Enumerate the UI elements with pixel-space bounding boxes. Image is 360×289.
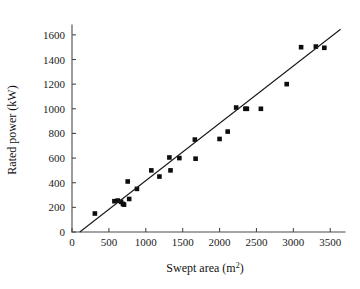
trend-line xyxy=(80,29,341,232)
data-point xyxy=(122,202,127,207)
y-axis-ticks xyxy=(72,35,76,232)
data-point xyxy=(157,174,162,179)
x-axis-tick-labels: 0500100015002000250030003500 xyxy=(69,236,341,248)
x-axis-ticks xyxy=(72,228,330,232)
data-point xyxy=(149,168,154,173)
y-tick-label-1200: 1200 xyxy=(43,78,66,90)
data-point xyxy=(284,82,289,87)
data-point xyxy=(193,156,198,161)
data-point xyxy=(127,197,132,202)
y-tick-label-600: 600 xyxy=(49,152,66,164)
data-point xyxy=(259,106,264,111)
x-tick-label-500: 500 xyxy=(101,236,118,248)
data-point xyxy=(225,129,230,134)
x-tick-label-2500: 2500 xyxy=(245,236,268,248)
data-points xyxy=(93,44,327,216)
data-point xyxy=(93,211,98,216)
x-tick-label-1000: 1000 xyxy=(135,236,158,248)
x-tick-label-2000: 2000 xyxy=(209,236,232,248)
data-point xyxy=(322,45,327,50)
x-tick-label-3500: 3500 xyxy=(319,236,342,248)
x-axis-title: Swept area (m2) xyxy=(166,261,243,275)
data-point xyxy=(299,45,304,50)
data-point xyxy=(167,155,172,160)
data-point xyxy=(125,179,130,184)
y-tick-label-200: 200 xyxy=(49,201,66,213)
data-point xyxy=(245,106,250,111)
y-tick-label-0: 0 xyxy=(60,226,66,238)
y-tick-label-1600: 1600 xyxy=(43,29,66,41)
data-point xyxy=(168,168,173,173)
y-tick-label-1000: 1000 xyxy=(43,103,66,115)
chart-figure: 0500100015002000250030003500 02004006008… xyxy=(0,0,360,289)
y-tick-label-1400: 1400 xyxy=(43,54,66,66)
scatter-plot: 0500100015002000250030003500 02004006008… xyxy=(0,0,360,289)
y-tick-label-400: 400 xyxy=(49,177,66,189)
y-axis-title: Rated power (kW) xyxy=(5,85,19,174)
x-tick-label-0: 0 xyxy=(69,236,75,248)
y-tick-label-800: 800 xyxy=(49,127,66,139)
x-tick-label-1500: 1500 xyxy=(172,236,195,248)
x-tick-label-3000: 3000 xyxy=(282,236,305,248)
y-axis-tick-labels: 02004006008001000120014001600 xyxy=(43,29,66,238)
data-point xyxy=(217,137,222,142)
